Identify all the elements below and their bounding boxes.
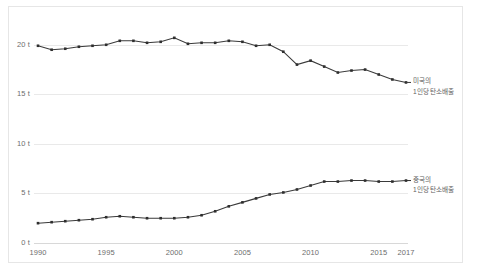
- y-axis-tick-label: 0 t: [4, 238, 30, 247]
- series-marker: [309, 59, 312, 62]
- x-axis-tick-label: 2005: [222, 248, 262, 257]
- series-marker: [214, 42, 217, 45]
- series-marker: [187, 42, 190, 45]
- series-marker: [214, 210, 217, 213]
- series-marker: [296, 188, 299, 191]
- y-axis-tick-label: 5 t: [4, 188, 30, 197]
- series-marker: [282, 50, 285, 53]
- series-marker: [323, 180, 326, 183]
- series-marker: [64, 220, 67, 223]
- line-chart-plot: [0, 0, 480, 279]
- series-marker: [132, 216, 135, 219]
- series-marker: [255, 44, 258, 47]
- series-marker: [37, 222, 40, 225]
- series-marker: [200, 214, 203, 217]
- series-label-line1: 중국의: [413, 175, 455, 185]
- series-marker: [105, 43, 108, 46]
- series-marker: [173, 217, 176, 220]
- series-marker: [64, 47, 67, 50]
- series-marker: [187, 216, 190, 219]
- series-marker: [255, 197, 258, 200]
- x-axis-tick-label: 2000: [154, 248, 194, 257]
- series-marker: [91, 44, 94, 47]
- series-marker: [364, 179, 367, 182]
- series-label-line2: 1인당 탄소배출: [413, 185, 455, 195]
- series-marker: [146, 42, 149, 45]
- y-axis-tick-label: 10 t: [4, 139, 30, 148]
- series-label-0: 미국의1인당 탄소배출: [413, 76, 455, 96]
- series-marker: [105, 216, 108, 219]
- series-marker: [309, 184, 312, 187]
- series-marker: [91, 218, 94, 221]
- series-marker: [377, 180, 380, 183]
- series-label-line1: 미국의: [413, 76, 455, 86]
- series-marker: [146, 217, 149, 220]
- x-axis-tick-label: 2010: [291, 248, 331, 257]
- series-marker: [323, 65, 326, 68]
- x-axis-tick-label: 1995: [86, 248, 126, 257]
- series-line-1: [38, 181, 406, 224]
- series-marker: [337, 71, 340, 74]
- series-marker: [132, 40, 135, 43]
- series-marker: [241, 201, 244, 204]
- series-marker: [241, 41, 244, 44]
- series-marker: [159, 41, 162, 44]
- series-marker: [118, 40, 121, 43]
- series-marker: [364, 68, 367, 71]
- series-marker: [350, 69, 353, 72]
- x-axis-tick-label: 2017: [386, 248, 426, 257]
- chart-container: 0 t5 t10 t15 t20 t1990199520002005201020…: [0, 0, 480, 279]
- series-marker: [159, 217, 162, 220]
- series-marker: [50, 48, 53, 51]
- y-axis-tick-label: 15 t: [4, 89, 30, 98]
- series-marker: [268, 43, 271, 46]
- series-marker: [200, 42, 203, 45]
- series-marker: [391, 180, 394, 183]
- y-axis-tick-label: 20 t: [4, 40, 30, 49]
- series-marker: [282, 191, 285, 194]
- series-marker: [50, 221, 53, 224]
- series-marker: [268, 193, 271, 196]
- series-marker: [296, 63, 299, 66]
- series-label-1: 중국의1인당 탄소배출: [413, 175, 455, 195]
- series-marker: [37, 44, 40, 47]
- x-axis-tick-label: 1990: [18, 248, 58, 257]
- series-marker: [228, 40, 231, 43]
- series-marker: [377, 73, 380, 76]
- series-marker: [118, 215, 121, 218]
- series-marker: [228, 205, 231, 208]
- series-label-line2: 1인당 탄소배출: [413, 87, 455, 97]
- series-marker: [350, 179, 353, 182]
- series-marker: [337, 180, 340, 183]
- series-marker: [173, 37, 176, 40]
- series-marker: [78, 45, 81, 48]
- series-marker: [78, 219, 81, 222]
- series-marker: [391, 78, 394, 81]
